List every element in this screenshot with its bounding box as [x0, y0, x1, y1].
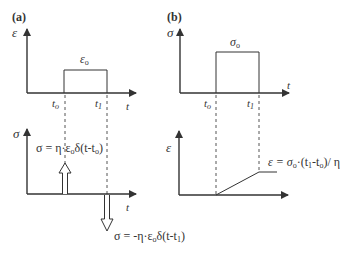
stress-pulse: [216, 52, 259, 93]
impulse-up-equation: σ = η·εoδ(t-to): [36, 141, 103, 156]
t0-tick-label: to: [52, 97, 59, 111]
panel-a-label: (a): [12, 10, 26, 24]
time-axis-label: t: [126, 201, 130, 213]
stress-axis-label: σ: [167, 25, 174, 40]
time-axis-label: t: [126, 100, 130, 112]
t1-tick-label: t1: [95, 97, 102, 111]
viscous-element-diagram: (a) ε t εo to t1 σ t σ = η·εoδ(t-to) σ =…: [0, 0, 358, 254]
t1-tick-label: t1: [247, 97, 254, 111]
panel-b-strain-plot: ε ε = σo·(t1-to)/ η: [166, 131, 340, 195]
panel-a-stress-plot: σ t σ = η·εoδ(t-to) σ = -η·εoδ(t-t1): [13, 126, 185, 244]
panel-b-label: (b): [167, 10, 182, 24]
panel-a-strain-plot: ε t εo to t1: [12, 25, 136, 112]
time-axis-label: t: [287, 79, 291, 91]
strain-axis-label: ε: [166, 140, 172, 155]
strain-pulse-label: εo: [80, 52, 89, 67]
ramp-equation: ε = σo·(t1-to)/ η: [268, 155, 340, 170]
impulse-down-arrow-icon: [101, 195, 113, 231]
impulse-down-equation: σ = -η·εoδ(t-t1): [114, 229, 185, 244]
impulse-up-arrow-icon: [59, 163, 71, 194]
strain-axis-label: ε: [12, 25, 18, 40]
stress-axis-label: σ: [13, 126, 20, 141]
t0-tick-label: to: [204, 97, 211, 111]
strain-ramp: [216, 172, 277, 195]
strain-pulse: [64, 70, 107, 93]
stress-pulse-label: σo: [230, 35, 240, 50]
panel-b-stress-plot: σ t σo to t1: [167, 25, 291, 111]
